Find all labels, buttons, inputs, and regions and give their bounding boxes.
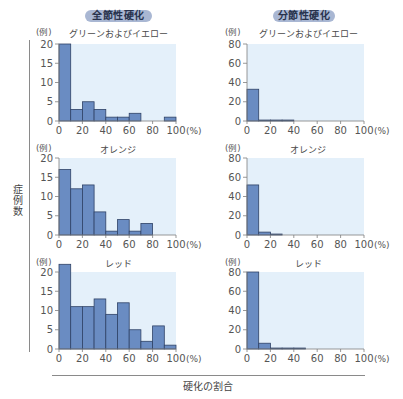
histogram-bar bbox=[118, 220, 130, 235]
histogram-bar bbox=[129, 330, 141, 349]
histogram-bar bbox=[247, 185, 259, 235]
x-tick-label: 40 bbox=[99, 125, 112, 136]
y-tick-label: 5 bbox=[47, 96, 53, 107]
x-tick-label: 40 bbox=[99, 353, 112, 364]
x-tick-label: 40 bbox=[99, 239, 112, 250]
percent-unit-label: (%) bbox=[374, 354, 390, 364]
histogram-bar bbox=[118, 303, 130, 349]
x-tick-label: 40 bbox=[287, 125, 300, 136]
histogram-bar bbox=[71, 109, 83, 121]
x-tick-label: 20 bbox=[264, 125, 277, 136]
histogram-bar bbox=[118, 117, 130, 121]
y-tick-label: 60 bbox=[228, 172, 241, 183]
histogram-bar bbox=[94, 212, 106, 235]
histogram-bar bbox=[82, 185, 94, 235]
x-tick-label: 60 bbox=[123, 239, 136, 250]
y-tick-label: 20 bbox=[228, 324, 241, 335]
x-tick-label: 100 bbox=[354, 239, 373, 250]
x-tick-label: 100 bbox=[354, 125, 373, 136]
y-tick-label: 15 bbox=[40, 286, 53, 297]
histogram-bar bbox=[259, 232, 271, 235]
histogram-segmental-red: 020406080020406080100(%) bbox=[228, 267, 389, 365]
y-tick-label: 10 bbox=[40, 191, 53, 202]
histogram-bar bbox=[106, 117, 118, 121]
histogram-grid: 05101520020406080100(%) 0510152002040608… bbox=[0, 0, 403, 399]
histogram-global-red: 05101520020406080100(%) bbox=[40, 264, 201, 364]
x-tick-label: 80 bbox=[146, 239, 159, 250]
histogram-bar bbox=[129, 231, 141, 235]
x-tick-label: 100 bbox=[166, 353, 185, 364]
histogram-bar bbox=[129, 113, 141, 121]
y-tick-label: 5 bbox=[47, 210, 53, 221]
x-tick-label: 60 bbox=[123, 353, 136, 364]
histogram-segmental-orange: 020406080020406080100(%) bbox=[228, 153, 389, 251]
y-tick-label: 20 bbox=[228, 210, 241, 221]
x-tick-label: 0 bbox=[244, 353, 250, 364]
histogram-bar bbox=[141, 341, 153, 349]
histogram-bar bbox=[247, 89, 259, 121]
y-tick-label: 80 bbox=[228, 267, 241, 278]
x-tick-label: 20 bbox=[76, 239, 89, 250]
y-tick-label: 5 bbox=[47, 324, 53, 335]
y-tick-label: 20 bbox=[228, 96, 241, 107]
x-tick-label: 100 bbox=[166, 125, 185, 136]
histogram-bar bbox=[164, 345, 176, 349]
x-tick-label: 80 bbox=[146, 125, 159, 136]
x-tick-label: 20 bbox=[264, 239, 277, 250]
y-tick-label: 60 bbox=[228, 58, 241, 69]
histogram-bar bbox=[59, 170, 71, 235]
y-tick-label: 80 bbox=[228, 39, 241, 50]
x-tick-label: 20 bbox=[76, 125, 89, 136]
x-tick-label: 40 bbox=[287, 353, 300, 364]
plot-area bbox=[247, 272, 364, 349]
histogram-bar bbox=[94, 299, 106, 349]
y-tick-label: 15 bbox=[40, 172, 53, 183]
x-tick-label: 20 bbox=[76, 353, 89, 364]
y-tick-label: 20 bbox=[40, 153, 53, 164]
histogram-bar bbox=[71, 307, 83, 349]
x-tick-label: 40 bbox=[287, 239, 300, 250]
histogram-segmental-green-yellow: 020406080020406080100(%) bbox=[228, 39, 389, 137]
percent-unit-label: (%) bbox=[374, 240, 390, 250]
percent-unit-label: (%) bbox=[186, 240, 202, 250]
percent-unit-label: (%) bbox=[374, 126, 390, 136]
x-tick-label: 80 bbox=[334, 239, 347, 250]
y-tick-label: 0 bbox=[47, 116, 53, 127]
y-tick-label: 20 bbox=[40, 267, 53, 278]
y-tick-label: 0 bbox=[235, 344, 241, 355]
x-tick-label: 0 bbox=[56, 353, 62, 364]
x-tick-label: 100 bbox=[354, 353, 373, 364]
x-tick-label: 0 bbox=[244, 239, 250, 250]
plot-area bbox=[247, 158, 364, 235]
y-tick-label: 0 bbox=[47, 230, 53, 241]
histogram-bar bbox=[59, 44, 71, 121]
x-tick-label: 0 bbox=[56, 125, 62, 136]
y-tick-label: 0 bbox=[47, 344, 53, 355]
y-tick-label: 60 bbox=[228, 286, 241, 297]
histogram-bar bbox=[82, 102, 94, 121]
y-tick-label: 40 bbox=[228, 77, 241, 88]
histogram-bar bbox=[247, 272, 259, 349]
x-tick-label: 60 bbox=[123, 125, 136, 136]
x-tick-label: 20 bbox=[264, 353, 277, 364]
histogram-bar bbox=[71, 189, 83, 235]
x-tick-label: 0 bbox=[56, 239, 62, 250]
x-tick-label: 80 bbox=[334, 125, 347, 136]
histogram-global-green-yellow: 05101520020406080100(%) bbox=[40, 39, 201, 137]
histogram-bar bbox=[164, 117, 176, 121]
histogram-bar bbox=[153, 326, 165, 349]
percent-unit-label: (%) bbox=[186, 126, 202, 136]
y-tick-label: 80 bbox=[228, 153, 241, 164]
y-tick-label: 0 bbox=[235, 230, 241, 241]
x-tick-label: 60 bbox=[311, 125, 324, 136]
x-tick-label: 80 bbox=[334, 353, 347, 364]
percent-unit-label: (%) bbox=[186, 354, 202, 364]
histogram-bar bbox=[94, 109, 106, 121]
histogram-bar bbox=[259, 343, 271, 349]
x-tick-label: 100 bbox=[166, 239, 185, 250]
y-tick-label: 20 bbox=[40, 39, 53, 50]
plot-area bbox=[247, 44, 364, 121]
y-tick-label: 15 bbox=[40, 58, 53, 69]
x-tick-label: 60 bbox=[311, 239, 324, 250]
y-tick-label: 10 bbox=[40, 77, 53, 88]
